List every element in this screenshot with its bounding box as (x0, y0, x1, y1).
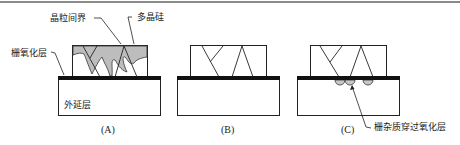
polysilicon-b (191, 46, 267, 77)
epitaxial-layer-b (178, 79, 280, 116)
polysilicon-c (311, 46, 387, 77)
caption-c: (C) (341, 124, 354, 136)
label-polysilicon: 多晶硅 (137, 12, 164, 22)
label-gate-oxide: 栅氧化层 (11, 48, 47, 58)
leader-grain-boundary (94, 18, 121, 44)
panel-b (177, 46, 280, 116)
gate-oxide-a (58, 76, 161, 80)
label-gate-impurity: 栅杂质穿过氧化层 (374, 122, 446, 132)
gate-oxide-b (177, 76, 280, 80)
gate-oxide-c (297, 76, 400, 80)
caption-b: (B) (221, 124, 234, 136)
panel-c (297, 46, 400, 129)
label-epitaxial-layer: 外延层 (64, 100, 91, 110)
leader-polysilicon (128, 17, 134, 44)
label-grain-boundary: 晶粒间界 (50, 13, 86, 23)
caption-a: (A) (101, 124, 115, 136)
leader-gate-oxide (51, 52, 64, 75)
